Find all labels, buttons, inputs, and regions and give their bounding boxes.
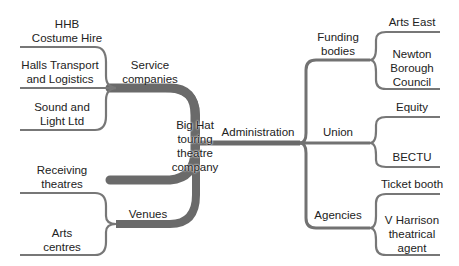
- label-line: Service: [118, 58, 182, 72]
- label-line: touring: [166, 132, 224, 146]
- label-line: bodies: [313, 44, 363, 58]
- label-line: Venues: [126, 207, 170, 221]
- leaf-receiving-theatres: Receiving theatres: [26, 163, 98, 191]
- label-line: V Harrison: [380, 213, 444, 227]
- label-line: theatrical: [380, 227, 444, 241]
- label-line: Arts: [36, 226, 88, 240]
- label-line: Costume Hire: [26, 31, 108, 45]
- label-line: Big Hat: [166, 118, 224, 132]
- label-line: HHB: [26, 17, 108, 31]
- leaf-arts-east: Arts East: [384, 15, 440, 29]
- label-line: and Logistics: [18, 72, 102, 86]
- label-line: company: [166, 160, 224, 174]
- label-line: Funding: [313, 30, 363, 44]
- label-line: Light Ltd: [26, 114, 98, 128]
- label-line: Union: [316, 125, 360, 139]
- branch-venues: Venues: [126, 207, 170, 221]
- leaf-bectu: BECTU: [388, 150, 436, 164]
- label-line: Administration: [218, 125, 298, 139]
- label-line: Equity: [390, 100, 434, 114]
- leaf-equity: Equity: [390, 100, 434, 114]
- label-line: Receiving: [26, 163, 98, 177]
- label-line: theatres: [26, 177, 98, 191]
- label-line: agent: [380, 241, 444, 255]
- leaf-v-harrison: V Harrison theatrical agent: [380, 213, 444, 255]
- leaf-arts-centres: Arts centres: [36, 226, 88, 254]
- sub-union: Union: [316, 125, 360, 139]
- label-line: Halls Transport: [18, 58, 102, 72]
- label-line: BECTU: [388, 150, 436, 164]
- label-line: Newton: [386, 47, 438, 61]
- label-line: Agencies: [310, 208, 366, 222]
- label-line: Council: [386, 75, 438, 89]
- label-line: theatre: [166, 146, 224, 160]
- leaf-newton-borough-council: Newton Borough Council: [386, 47, 438, 89]
- leaf-halls-transport: Halls Transport and Logistics: [18, 58, 102, 86]
- sub-agencies: Agencies: [310, 208, 366, 222]
- branch-receiving: [20, 193, 116, 224]
- center-node: Big Hat touring theatre company: [166, 118, 224, 174]
- branch-service-companies: Service companies: [118, 58, 182, 86]
- branch-equity: [370, 117, 440, 143]
- label-line: Arts East: [384, 15, 440, 29]
- label-line: companies: [118, 72, 182, 86]
- sub-funding-bodies: Funding bodies: [313, 30, 363, 58]
- label-line: Sound and: [26, 100, 98, 114]
- label-line: centres: [36, 240, 88, 254]
- branch-administration: Administration: [218, 125, 298, 139]
- label-line: Ticket booth: [376, 177, 448, 191]
- label-line: Borough: [386, 61, 438, 75]
- leaf-ticket-booth: Ticket booth: [376, 177, 448, 191]
- leaf-hhb-costume-hire: HHB Costume Hire: [26, 17, 108, 45]
- leaf-sound-and-light: Sound and Light Ltd: [26, 100, 98, 128]
